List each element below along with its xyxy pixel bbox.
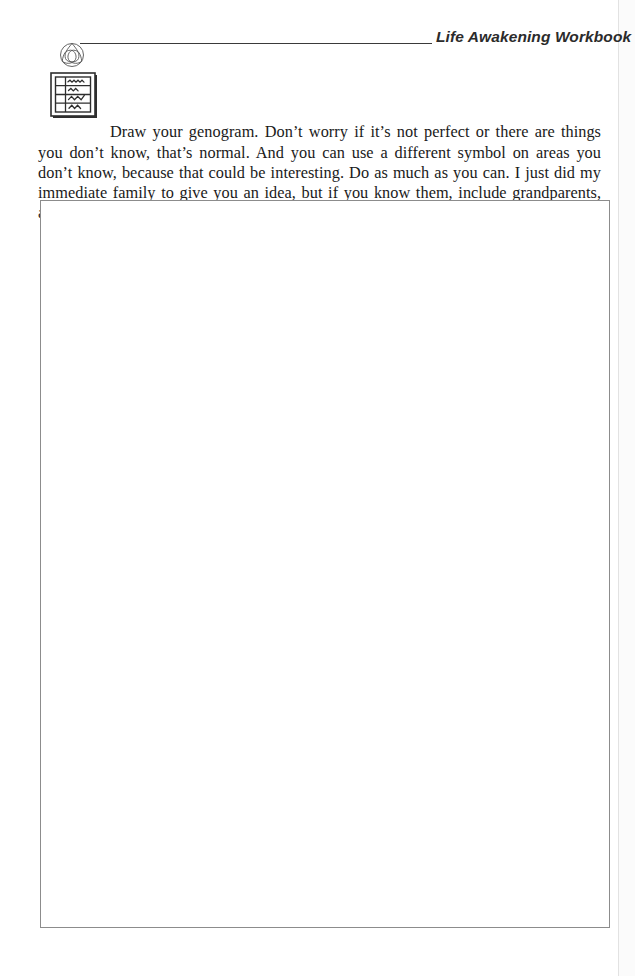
worksheet-form-icon [50, 72, 98, 119]
header-rule [80, 43, 432, 44]
scan-margin [619, 0, 635, 976]
workbook-page: Life Awakening Workbook [0, 0, 635, 976]
page-header: Life Awakening Workbook [0, 18, 635, 64]
page-title: Life Awakening Workbook [436, 28, 631, 46]
genogram-drawing-area[interactable] [40, 200, 610, 928]
